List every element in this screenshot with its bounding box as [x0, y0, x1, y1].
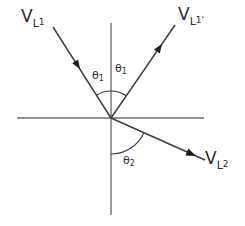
incident-label-sub: L — [33, 17, 39, 30]
theta1-reflected-label: θ1 — [115, 63, 127, 74]
theta1-incident-sub: 1 — [99, 74, 104, 83]
theta1-incident-label: θ1 — [92, 70, 104, 81]
theta2-label: θ2 — [123, 155, 135, 166]
transmitted-vector-label: VL2 — [205, 150, 229, 167]
transmitted-arrowhead-icon — [185, 148, 197, 159]
reflected-label-sub: L — [190, 15, 196, 28]
incident-vector-label: VL1 — [21, 8, 45, 25]
reflected-arrowhead-icon — [154, 42, 165, 53]
theta1-reflected-symbol: θ — [115, 62, 122, 75]
theta1-incident-symbol: θ — [92, 69, 99, 82]
reflected-label-subsub: 1' — [196, 15, 204, 25]
transmitted-label-main: V — [205, 148, 217, 168]
transmitted-label-subsub: 2 — [223, 159, 229, 169]
transmitted-label-sub: L — [217, 159, 223, 172]
incident-arrowhead-icon — [72, 60, 83, 71]
incident-label-main: V — [21, 6, 33, 26]
reflected-label-main: V — [178, 4, 190, 24]
theta1-reflected-sub: 1 — [122, 67, 127, 76]
theta2-symbol: θ — [123, 154, 130, 167]
reflected-vector-label: VL1' — [178, 6, 204, 23]
vector-diagram — [0, 0, 245, 226]
theta1-reflected-arc — [111, 91, 126, 96]
theta2-arc — [111, 133, 144, 154]
theta2-sub: 2 — [130, 159, 135, 168]
incident-label-subsub: 1 — [39, 17, 45, 27]
theta1-incident-arc — [97, 91, 112, 95]
